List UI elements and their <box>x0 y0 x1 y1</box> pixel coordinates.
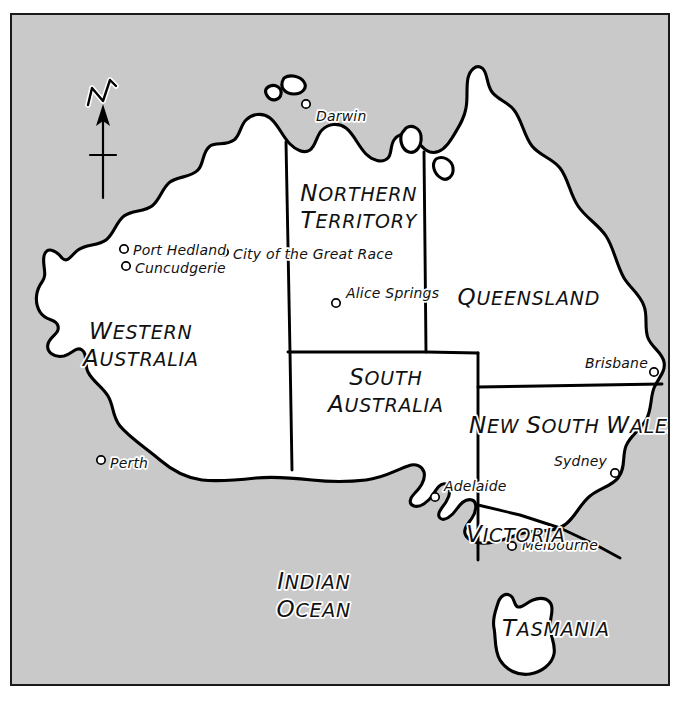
svg-text:TERRITORY: TERRITORY <box>212 207 493 233</box>
sa-label-line1-cap: S <box>349 364 364 390</box>
map-container: DarwinPort HedlandCuncudgerieCity of the… <box>0 0 685 702</box>
svg-text:VICTORIA: VICTORIA <box>377 521 641 547</box>
city-marker-alice-springs[interactable] <box>332 299 340 307</box>
city-label-sydney: Sydney <box>554 453 608 469</box>
nt-label-line2-cap: T <box>301 207 317 233</box>
tas-label-cap: T <box>502 615 518 641</box>
city-label-adelaide: Adelaide <box>443 478 507 494</box>
australia-map-graphic[interactable]: DarwinPort HedlandCuncudgerieCity of the… <box>10 13 670 686</box>
city-marker-brisbane[interactable] <box>650 368 658 376</box>
ocean-label-line1-cap: I <box>277 568 285 594</box>
city-marker-cuncudgerie[interactable] <box>122 262 130 270</box>
ocean-label-line1: NDIAN <box>285 571 351 593</box>
ocean-label-line2: CEAN <box>295 599 351 621</box>
nt-label-line1-cap: N <box>300 180 318 206</box>
border-nt-qld[interactable] <box>424 152 426 352</box>
svg-text:QUEENSLAND: QUEENSLAND <box>369 284 670 310</box>
city-label-darwin: Darwin <box>316 108 367 124</box>
svg-text:TASMANIA: TASMANIA <box>413 615 670 641</box>
vic-label-cap: V <box>466 521 484 547</box>
border-nt-sa[interactable] <box>288 352 478 353</box>
svg-text:INDIAN: INDIAN <box>202 568 412 594</box>
city-marker-darwin[interactable] <box>302 100 310 108</box>
island-melville-west <box>282 76 305 94</box>
label-new-south-wales: NEW SOUTH WALES NEW SOUTH WALES <box>380 412 670 438</box>
city-marker-perth[interactable] <box>97 456 105 464</box>
city-marker-sydney[interactable] <box>611 469 619 477</box>
svg-text:SOUTH: SOUTH <box>260 364 498 390</box>
tas-label: ASMANIA <box>515 618 610 640</box>
city-marker-port-hedland[interactable] <box>120 245 128 253</box>
qld-label: UEENSLAND <box>476 287 600 309</box>
ocean-label-line2-cap: O <box>277 596 296 622</box>
island-northeast-small <box>434 158 454 180</box>
svg-text:OCEAN: OCEAN <box>201 596 412 622</box>
city-label-cuncudgerie: Cuncudgerie <box>135 260 226 276</box>
svg-text:AUSTRALIA: AUSTRALIA <box>10 345 274 371</box>
nt-label-line1: ORTHERN <box>318 183 417 205</box>
vic-label: ICTORIA <box>483 524 566 546</box>
island-bathurst <box>266 85 282 99</box>
north-arrow-group[interactable] <box>88 80 116 198</box>
sa-label-line2-cap: A <box>326 391 345 417</box>
city-marker-adelaide[interactable] <box>431 493 439 501</box>
label-tasmania: TASMANIA <box>413 615 670 641</box>
label-queensland: QUEENSLAND <box>369 284 670 310</box>
wa-label-line1-cap: W <box>89 318 113 344</box>
qld-label-cap: Q <box>457 284 476 310</box>
wa-label-line2: USTRALIA <box>99 348 198 370</box>
map-frame-border: DarwinPort HedlandCuncudgerieCity of the… <box>10 13 670 686</box>
wa-label-line1: ESTERN <box>113 321 193 343</box>
svg-text:NEW SOUTH WALES: NEW SOUTH WALES <box>380 412 670 438</box>
sa-label-line1: OUTH <box>365 367 423 389</box>
nt-label-line2: ERRITORY <box>315 210 417 232</box>
svg-text:WESTERN: WESTERN <box>10 318 268 344</box>
wa-label-line2-cap: A <box>81 345 100 371</box>
label-indian-ocean: INDIAN OCEAN <box>201 568 412 622</box>
city-label-city-of-the-great-race: City of the Great Race <box>233 246 393 262</box>
sa-label-line2: USTRALIA <box>344 394 443 416</box>
city-label-port-hedland: Port Hedland <box>133 242 226 258</box>
island-groote-eylandt <box>401 126 421 152</box>
city-label-perth: Perth <box>110 455 148 471</box>
label-victoria: VICTORIA <box>377 521 641 547</box>
svg-text:NORTHERN: NORTHERN <box>211 180 492 206</box>
city-label-brisbane: Brisbane <box>585 355 648 371</box>
